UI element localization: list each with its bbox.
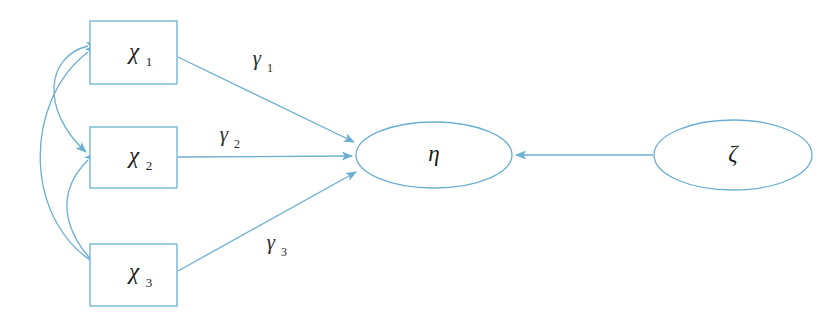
node-chi2-subscript: 2 bbox=[146, 158, 153, 173]
node-eta[interactable]: η bbox=[356, 122, 512, 188]
path-label-gamma3: γ bbox=[267, 230, 276, 254]
node-chi1-symbol: χ bbox=[127, 39, 140, 64]
path-arrow-gamma2 bbox=[178, 156, 352, 157]
node-eta-symbol: η bbox=[428, 141, 439, 166]
node-chi2-symbol: χ bbox=[127, 143, 140, 168]
node-chi3[interactable]: χ 3 bbox=[90, 244, 177, 306]
diagram-canvas: χ 1 χ 2 χ 3 η ζ γ 1 γ 2 γ bbox=[0, 0, 832, 330]
path-arrow-gamma3 bbox=[178, 172, 356, 271]
node-zeta[interactable]: ζ bbox=[654, 120, 812, 190]
path-label-gamma1: γ bbox=[253, 46, 262, 70]
path-label-gamma2-subscript: 2 bbox=[234, 137, 240, 151]
path-arrow-gamma1 bbox=[178, 57, 354, 142]
node-chi2[interactable]: χ 2 bbox=[90, 127, 177, 188]
path-label-gamma1-subscript: 1 bbox=[267, 61, 273, 75]
node-chi1-subscript: 1 bbox=[146, 54, 153, 69]
path-labels: γ 1 γ 2 γ 3 bbox=[220, 46, 287, 259]
path-label-gamma3-subscript: 3 bbox=[281, 245, 287, 259]
node-chi3-subscript: 3 bbox=[146, 275, 153, 290]
node-chi3-symbol: χ bbox=[127, 259, 140, 284]
path-label-gamma2: γ bbox=[220, 122, 229, 146]
node-chi1[interactable]: χ 1 bbox=[90, 21, 177, 84]
covariance-arrow-chi1-chi2 bbox=[54, 46, 88, 152]
sem-path-diagram: χ 1 χ 2 χ 3 η ζ γ 1 γ 2 γ bbox=[0, 0, 832, 330]
